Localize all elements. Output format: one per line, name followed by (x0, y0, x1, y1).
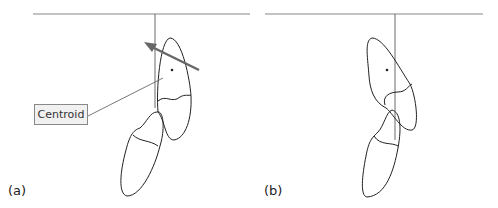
centroid-dot-a (171, 69, 174, 72)
lower-segment-a (121, 112, 163, 196)
force-arrow-a (150, 46, 199, 70)
joint-line-lower-b (374, 136, 398, 146)
upper-segment-b (367, 38, 416, 130)
lower-segment-b (362, 110, 400, 197)
centroid-label-box: Centroid (34, 104, 88, 125)
joint-line-upper-a (158, 95, 191, 101)
joint-line-upper-b (384, 84, 412, 105)
panel-label-a: (a) (8, 183, 26, 198)
diagram: Centroid (a) (b) (0, 0, 498, 208)
joint-line-lower-a (133, 135, 158, 146)
centroid-dot-b (386, 69, 389, 72)
centroid-pointer-line (88, 78, 163, 116)
panel-label-b: (b) (264, 183, 282, 198)
centroid-label: Centroid (38, 108, 85, 121)
